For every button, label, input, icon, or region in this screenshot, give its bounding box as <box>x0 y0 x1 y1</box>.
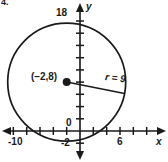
y-axis-arrow-down <box>76 151 84 160</box>
y-tick-label-18: 18 <box>56 8 67 18</box>
problem-number: 4. <box>1 0 11 7</box>
x-tick-label-6: 6 <box>117 137 123 147</box>
center-point-marker <box>63 78 71 86</box>
coordinate-plane-svg <box>0 0 168 162</box>
y-axis-arrow-up <box>76 3 84 12</box>
radius-segment <box>67 82 125 93</box>
y-tick-label-0: 0 <box>66 118 72 128</box>
circle-center-label: (–2,8) <box>31 72 57 82</box>
y-tick-label-neg2: -2 <box>61 138 70 148</box>
x-axis-arrow-right <box>157 127 166 135</box>
y-axis-label: y <box>86 2 92 12</box>
x-axis-arrow-left <box>2 127 11 135</box>
x-axis-label: x <box>156 137 162 147</box>
circle-graph-figure: 4. 18 0 -2 -10 6 x y (–2,8) r = 9 <box>0 0 168 162</box>
x-tick-label-neg10: -10 <box>8 137 22 147</box>
